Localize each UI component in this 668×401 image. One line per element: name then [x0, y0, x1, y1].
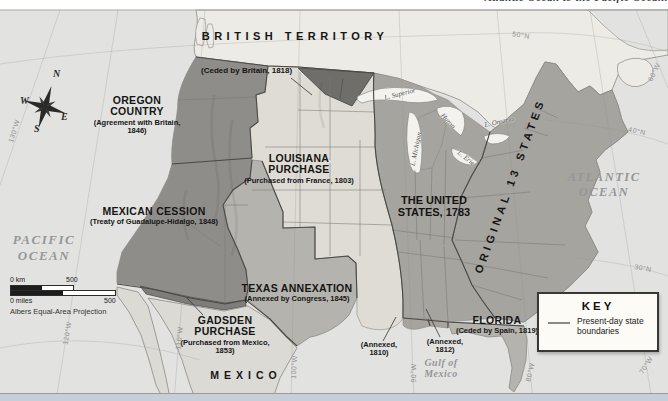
label-pacific-ocean: PACIFIC OCEAN	[6, 232, 82, 264]
label-louisiana-purchase: LOUISIANA PURCHASE (Purchased from Franc…	[243, 153, 355, 185]
scale-miles-zero: 0 miles	[10, 297, 32, 304]
label-oregon-country: OREGON COUNTRY (Agreement with Britain, …	[92, 95, 182, 135]
gadsden-purchase-note: (Purchased from Mexico, 1853)	[172, 339, 278, 356]
label-mexico: MEXICO	[196, 370, 296, 381]
mexican-cession-name: MEXICAN CESSION	[88, 206, 220, 217]
scale-km-max: 500	[66, 276, 78, 283]
compass-south-label: S	[34, 123, 40, 134]
mexican-cession-note: (Treaty of Guadalupe-Hidalgo, 1848)	[88, 218, 220, 226]
page-bottom-strip	[0, 394, 668, 401]
label-gadsden-purchase: GADSDEN PURCHASE (Purchased from Mexico,…	[172, 315, 278, 355]
label-ceded-britain-1818: (Ceded by Britain, 1818)	[201, 67, 292, 76]
cropped-page-caption: Atlantic Ocean to the Pacific Ocean.	[320, 0, 668, 7]
map-page: Atlantic Ocean to the Pacific Ocean. BRI…	[0, 0, 668, 401]
texas-annexation-note: (Annexed by Congress, 1845)	[222, 295, 372, 303]
oregon-country-note: (Agreement with Britain, 1846)	[92, 119, 182, 136]
scale-km-zero: 0 km	[10, 276, 25, 283]
louisiana-purchase-name: LOUISIANA PURCHASE	[243, 153, 355, 176]
label-mexican-cession: MEXICAN CESSION (Treaty of Guadalupe-Hid…	[88, 206, 220, 227]
florida-note: (Ceded by Spain, 1819)	[450, 327, 544, 335]
label-gulf-of-mexico: Gulf of Mexico	[414, 357, 468, 379]
louisiana-purchase-note: (Purchased from France, 1803)	[243, 177, 355, 185]
label-annexed-1812: (Annexed, 1812)	[420, 338, 470, 354]
label-texas-annexation: TEXAS ANNEXATION (Annexed by Congress, 1…	[222, 283, 372, 304]
florida-name: FLORIDA	[450, 315, 544, 326]
scale-miles-max: 500	[104, 297, 116, 304]
key-title: KEY	[539, 300, 657, 312]
scale-miles-bar	[10, 290, 116, 296]
texas-annexation-name: TEXAS ANNEXATION	[222, 283, 372, 294]
compass-west-label: W	[20, 95, 29, 106]
label-british-territory: BRITISH TERRITORY	[185, 31, 405, 43]
compass-north-label: N	[53, 68, 60, 79]
label-lon-100w: 100°W	[290, 355, 298, 379]
label-florida: FLORIDA (Ceded by Spain, 1819)	[450, 315, 544, 336]
key-entry-label: Present-day state boundaries	[577, 317, 651, 337]
gadsden-purchase-name: GADSDEN PURCHASE	[172, 315, 278, 338]
label-lon-90w: 90°W	[410, 363, 417, 382]
label-annexed-1810: (Annexed, 1810)	[354, 341, 404, 357]
key-boundary-line-swatch	[548, 322, 570, 324]
label-us-1783: THE UNITED STATES, 1783	[394, 195, 474, 219]
oregon-country-name: OREGON COUNTRY	[92, 95, 182, 118]
compass-east-label: E	[61, 111, 68, 122]
map-key: KEY Present-day state boundaries	[537, 292, 659, 352]
cropped-page-caption-text: Atlantic Ocean to the Pacific Ocean.	[320, 0, 668, 3]
scale-bar: 0 km 500 0 miles 500 Albers Equal-Area P…	[10, 276, 130, 316]
projection-label: Albers Equal-Area Projection	[10, 307, 130, 316]
label-atlantic-ocean: ATLANTIC OCEAN	[556, 170, 652, 200]
